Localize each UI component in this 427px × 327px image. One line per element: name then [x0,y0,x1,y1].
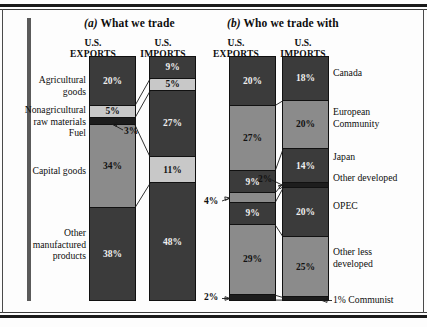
segment-capital-goods-exports: 34% [90,125,135,208]
segment-value: 20% [90,76,135,86]
category-label-communist: 1% Communist [333,294,427,306]
panel-b-imports-bar: 18% 20% 14% 2% 20% 25% 1% [283,57,328,300]
connector-b-olessdev [275,295,283,297]
segment-fuel-imports: 27% [150,91,195,157]
segment-value: 48% [150,237,195,247]
segment-value: 9% [230,208,275,218]
segment-value: 20% [283,119,328,129]
segment-value: 14% [283,161,328,171]
panel-a-exports-bar: 20% 5% 3% 34% 38% [90,57,135,300]
panel-a-label: (a) [84,17,98,29]
segment-value: 11% [150,165,195,175]
segment-canada-imports: 18% [283,57,328,101]
connector-a-agri [135,79,150,106]
category-label-agricultural-goods: Agricultural goods [0,74,86,97]
segment-value: 20% [283,207,328,217]
category-label-other-less-developed: Other less developed [333,246,427,269]
segment-value: 20% [230,76,275,86]
segment-european-community-imports: 20% [283,101,328,150]
segment-fuel-exports: 3% [90,118,135,125]
frame-bottom-thick-rule [0,315,427,318]
segment-value: 5% [90,106,135,116]
segment-nonagricultural-raw-materials-imports: 5% [150,79,195,91]
connector-b-opec [275,225,283,237]
panel-b-imports-header-line1: U.S. [272,38,334,49]
segment-capital-goods-imports: 11% [150,157,195,184]
category-label-japan: Japan [333,151,427,163]
segment-other-less-developed-imports: 25% [283,237,328,298]
segment-value: 38% [90,249,135,259]
segment-other-manufactured-products-exports: 38% [90,208,135,300]
segment-european-community-exports: 27% [230,106,275,172]
segment-nonagricultural-raw-materials-exports: 5% [90,106,135,118]
callout-fuel-exports-3pct: 3% [124,126,138,136]
segment-value: 9% [150,62,195,72]
connector-b-canada [275,101,283,106]
segment-other-less-developed-exports: 29% [230,225,275,296]
connector-a-nonagri [135,91,150,118]
callout-opec-exports-4pct: 4% [204,196,218,206]
connector-a-capital [135,184,150,208]
frame-left-rule [2,9,3,313]
segment-value: 18% [283,73,328,83]
frame-bottom-thin-rule [0,312,427,313]
panel-a-title: (a) What we trade [84,17,175,29]
connector-b-otherdev [275,188,283,203]
segment-communist-imports: 1% [283,297,328,300]
segment-value: 5% [150,79,195,89]
category-label-european-community: European Community [333,106,427,129]
panel-a-exports-header-line1: U.S. [62,38,124,49]
callout-other-developed-imports-2pct: 2% [258,174,272,184]
segment-opec-imports: 20% [283,188,328,237]
segment-agricultural-goods-exports: 20% [90,57,135,106]
leader-b-4pct [222,198,230,201]
connector-b-japan [275,183,283,193]
category-label-canada: Canada [333,67,427,79]
category-label-other-developed: Other developed [333,172,427,184]
segment-value: 25% [283,262,328,272]
segment-value: 34% [90,161,135,171]
category-label-opec: OPEC [333,200,427,212]
panel-b-label: (b) [227,17,241,29]
segment-canada-exports: 20% [230,57,275,106]
frame-top-thin-rule [0,9,427,10]
category-label-other-manufactured-products: Other manufactured products [0,227,86,262]
panel-b-title-text: Who we trade with [244,17,339,29]
segment-value: 27% [150,118,195,128]
callout-communist-exports-2pct: 2% [204,292,218,302]
panel-a-title-text: What we trade [101,17,175,29]
segment-value: 29% [230,254,275,264]
segment-other-developed-exports: 4% [230,193,275,203]
segment-communist-exports: 2% [230,295,275,300]
connector-b-ec [275,149,283,171]
category-label-fuel: Fuel [0,127,86,139]
panel-b-exports-header-line1: U.S. [205,38,267,49]
segment-other-manufactured-products-imports: 48% [150,183,195,300]
segment-opec-exports: 9% [230,203,275,225]
panel-b-title: (b) Who we trade with [227,17,339,29]
category-label-nonagricultural-raw-materials: Nonagricultural raw materials [0,104,86,127]
frame-top-thick-rule [0,4,427,7]
segment-japan-imports: 14% [283,149,328,183]
panel-a-imports-header-line1: U.S. [132,38,194,49]
category-label-capital-goods: Capital goods [0,165,86,177]
panel-a-imports-bar: 9% 5% 27% 11% 48% [150,57,195,300]
segment-value: 27% [230,133,275,143]
segment-agricultural-goods-imports: 9% [150,57,195,79]
